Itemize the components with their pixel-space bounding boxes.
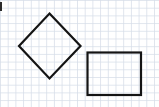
geometry-figure-canvas xyxy=(0,0,159,107)
diamond-shape xyxy=(19,14,81,79)
left-edge-mark xyxy=(0,2,2,11)
shapes-layer xyxy=(0,0,159,107)
rectangle-shape xyxy=(88,53,142,96)
